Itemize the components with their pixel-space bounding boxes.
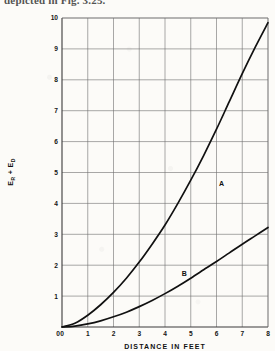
y-tick-label: 6	[54, 138, 58, 145]
origin-label: 0	[56, 330, 60, 337]
x-axis-title: DISTANCE IN FEET	[124, 343, 206, 350]
x-tick-label: 5	[189, 330, 193, 337]
figure-container: 012345678 123456789100 AB DISTANCE IN FE…	[0, 0, 275, 351]
x-axis-tick-labels: 012345678	[60, 330, 270, 337]
y-tick-label: 5	[54, 169, 58, 176]
grid-lines	[62, 18, 268, 327]
y-axis-tick-labels: 123456789100	[51, 14, 61, 337]
x-tick-label: 1	[86, 330, 90, 337]
curve-label-a: A	[219, 180, 224, 187]
y-tick-label: 1	[54, 293, 58, 300]
x-tick-label: 0	[60, 330, 64, 337]
svg-text:ER + ED: ER + ED	[7, 158, 16, 185]
x-tick-label: 3	[137, 330, 141, 337]
y-axis-title-operator: +	[7, 167, 14, 176]
y-tick-label: 10	[51, 14, 59, 21]
x-tick-label: 7	[240, 330, 244, 337]
x-tick-label: 4	[163, 330, 167, 337]
y-tick-label: 3	[54, 231, 58, 238]
y-tick-label: 7	[54, 107, 58, 114]
curve-labels: AB	[182, 180, 224, 277]
y-axis-title-sub2: D	[10, 158, 16, 162]
line-chart: 012345678 123456789100 AB DISTANCE IN FE…	[0, 0, 275, 351]
y-tick-label: 9	[54, 45, 58, 52]
y-axis-title: ER + ED	[7, 158, 16, 185]
curve-label-b: B	[182, 270, 187, 277]
x-tick-label: 6	[215, 330, 219, 337]
scanned-page: depicted in Fig. 3.25. 012345678 1234567…	[0, 0, 275, 351]
x-tick-label: 2	[112, 330, 116, 337]
y-tick-label: 8	[54, 76, 58, 83]
y-tick-label: 4	[54, 200, 58, 207]
y-tick-label: 2	[54, 262, 58, 269]
x-tick-label: 8	[266, 330, 270, 337]
